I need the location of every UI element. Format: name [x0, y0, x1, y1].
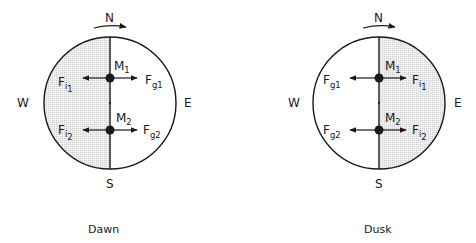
caption-dawn: Dawn [88, 223, 119, 236]
north-label: N [374, 11, 383, 25]
dusk-panel: N S W E M1 Fg1 Fi1 M2 Fg2 Fi2 Dusk [288, 11, 462, 236]
mass-1-dot [106, 74, 115, 83]
force-label-fg2: Fg2 [143, 123, 161, 140]
south-label: S [106, 177, 114, 191]
east-label: E [184, 96, 192, 110]
force-label-fg2: Fg2 [323, 123, 341, 140]
mass-2-dot [106, 126, 115, 135]
rotation-arrow-icon [94, 26, 126, 28]
east-label: E [454, 96, 462, 110]
shaded-half-east [379, 37, 445, 169]
dawn-dusk-diagram: N S W E M1 Fi1 Fg1 M2 Fi2 Fg2 Dawn N S W… [0, 0, 476, 243]
force-label-fg1: Fg1 [323, 73, 341, 90]
south-label: S [375, 177, 383, 191]
mass-2-label: M2 [116, 111, 132, 127]
mass-1-label: M1 [114, 59, 130, 75]
mass-1-dot [375, 74, 384, 83]
rotation-arrow-icon [363, 26, 395, 28]
caption-dusk: Dusk [364, 223, 392, 236]
center-dot [109, 102, 111, 104]
force-label-fg1: Fg1 [145, 73, 163, 90]
north-label: N [105, 11, 114, 25]
center-dot [378, 102, 380, 104]
west-label: W [17, 96, 29, 110]
dawn-panel: N S W E M1 Fi1 Fg1 M2 Fi2 Fg2 Dawn [17, 11, 192, 236]
mass-2-dot [375, 126, 384, 135]
shaded-half-west [44, 37, 110, 169]
west-label: W [288, 96, 300, 110]
